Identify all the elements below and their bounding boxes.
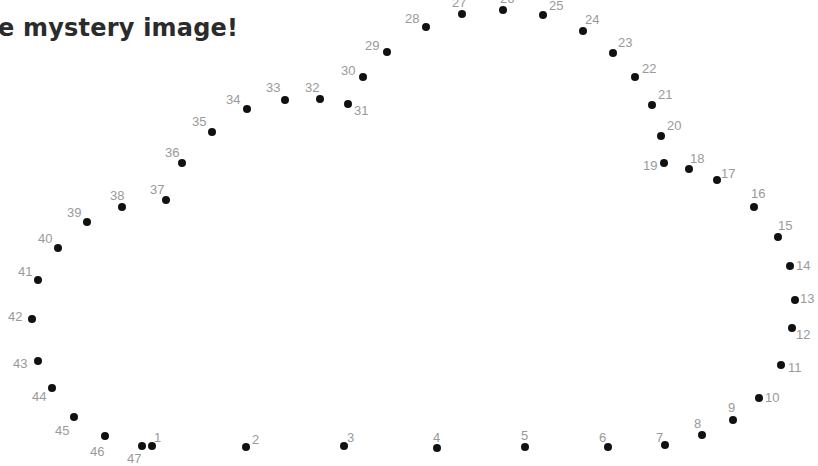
dot-point-2 — [242, 443, 250, 451]
dot-number-label: 32 — [305, 81, 319, 94]
dot-point-25 — [539, 11, 547, 19]
dot-number-label: 46 — [90, 445, 104, 458]
dot-number-label: 34 — [226, 93, 240, 106]
dot-number-label: 11 — [788, 361, 802, 374]
dot-number-label: 36 — [165, 146, 179, 159]
dot-number-label: 24 — [585, 13, 599, 26]
dot-number-label: 38 — [110, 189, 124, 202]
dot-point-19 — [660, 159, 668, 167]
dot-point-39 — [83, 218, 91, 226]
dot-point-42 — [28, 315, 36, 323]
dot-point-32 — [316, 95, 324, 103]
dot-point-36 — [178, 159, 186, 167]
dot-number-label: 7 — [656, 431, 663, 444]
dot-number-label: 23 — [618, 36, 632, 49]
dot-number-label: 33 — [266, 81, 280, 94]
dot-point-27 — [458, 10, 466, 18]
dot-point-43 — [34, 357, 42, 365]
dot-point-26 — [499, 6, 507, 14]
dot-point-15 — [774, 233, 782, 241]
dot-point-5 — [521, 443, 529, 451]
dot-number-label: 41 — [18, 265, 32, 278]
dot-number-label: 4 — [433, 431, 440, 444]
dot-number-label: 47 — [127, 452, 141, 465]
dot-number-label: 30 — [341, 64, 355, 77]
dot-number-label: 13 — [800, 292, 814, 305]
dot-number-label: 19 — [643, 159, 657, 172]
dot-point-23 — [609, 49, 617, 57]
dot-point-12 — [788, 324, 796, 332]
dot-number-label: 27 — [452, 0, 466, 9]
dot-number-label: 35 — [192, 115, 206, 128]
dot-number-label: 15 — [778, 219, 792, 232]
dot-number-label: 14 — [796, 259, 810, 272]
dot-number-label: 31 — [354, 104, 368, 117]
dot-number-label: 29 — [365, 39, 379, 52]
dot-point-4 — [433, 444, 441, 452]
dot-number-label: 1 — [154, 431, 161, 444]
dot-number-label: 22 — [642, 62, 656, 75]
dot-number-label: 43 — [13, 357, 27, 370]
dot-number-label: 45 — [55, 424, 69, 437]
dot-number-label: 26 — [500, 0, 514, 5]
dot-point-8 — [698, 431, 706, 439]
dot-number-label: 12 — [796, 328, 810, 341]
dot-point-30 — [359, 73, 367, 81]
dot-point-31 — [344, 100, 352, 108]
dot-number-label: 25 — [549, 0, 563, 12]
dot-point-41 — [34, 276, 42, 284]
dot-number-label: 6 — [599, 431, 606, 444]
dot-point-35 — [208, 128, 216, 136]
dot-point-40 — [54, 244, 62, 252]
dot-point-18 — [685, 165, 693, 173]
dot-number-label: 28 — [405, 12, 419, 25]
dot-number-label: 17 — [721, 167, 735, 180]
dot-number-label: 21 — [658, 88, 672, 101]
dot-point-28 — [422, 23, 430, 31]
dot-number-label: 39 — [67, 206, 81, 219]
dot-point-33 — [281, 96, 289, 104]
dot-point-47 — [138, 442, 146, 450]
dot-point-34 — [243, 105, 251, 113]
dot-point-37 — [162, 196, 170, 204]
dot-number-label: 16 — [751, 187, 765, 200]
dot-number-label: 42 — [8, 310, 22, 323]
dot-point-13 — [791, 296, 799, 304]
dot-point-10 — [755, 394, 763, 402]
dot-point-38 — [118, 203, 126, 211]
dot-point-20 — [657, 132, 665, 140]
dot-number-label: 44 — [32, 390, 46, 403]
dot-point-14 — [786, 262, 794, 270]
dot-point-11 — [777, 361, 785, 369]
dot-number-label: 3 — [347, 431, 354, 444]
dot-number-label: 40 — [38, 232, 52, 245]
dot-point-44 — [48, 384, 56, 392]
dot-point-9 — [729, 416, 737, 424]
dot-point-16 — [750, 203, 758, 211]
dot-point-46 — [101, 432, 109, 440]
dot-point-29 — [383, 48, 391, 56]
dot-number-label: 5 — [521, 429, 528, 442]
dot-number-label: 18 — [690, 152, 704, 165]
dot-number-label: 2 — [252, 433, 259, 446]
dot-point-17 — [713, 176, 721, 184]
dot-point-45 — [70, 413, 78, 421]
dot-number-label: 9 — [728, 401, 735, 414]
dot-point-21 — [648, 101, 656, 109]
page-title: e mystery image! — [0, 14, 238, 42]
dot-number-label: 37 — [150, 183, 164, 196]
dot-point-22 — [631, 73, 639, 81]
dot-number-label: 8 — [694, 417, 701, 430]
dot-number-label: 20 — [667, 119, 681, 132]
dot-number-label: 10 — [765, 391, 779, 404]
dot-point-24 — [579, 27, 587, 35]
